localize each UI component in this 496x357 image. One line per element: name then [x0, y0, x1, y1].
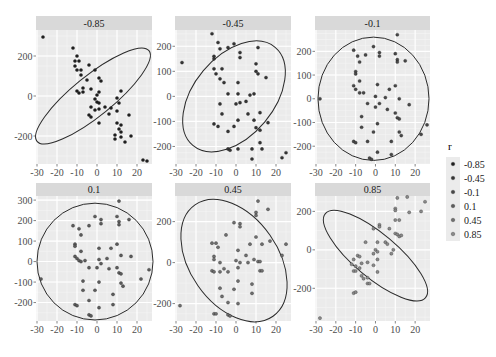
facet-strip-label: -0.1	[365, 18, 381, 29]
data-point	[115, 266, 118, 269]
data-point	[260, 269, 263, 272]
data-point	[77, 91, 80, 94]
data-point	[77, 59, 80, 62]
legend-entry-label: 0.1	[464, 201, 477, 212]
data-point	[372, 45, 375, 48]
data-point	[79, 260, 82, 263]
x-tick-label: -10	[349, 324, 362, 335]
panel-background	[175, 196, 291, 321]
data-point	[258, 111, 261, 114]
x-tick-label: -20	[329, 167, 342, 178]
data-point	[119, 89, 122, 92]
data-point	[396, 196, 399, 199]
facet-panel--0.1: -0.1-30-20-10010202001000-100-200	[293, 16, 435, 178]
data-point	[87, 224, 90, 227]
data-point	[400, 234, 403, 237]
data-point	[234, 102, 237, 105]
data-point	[354, 291, 357, 294]
data-point	[105, 257, 108, 260]
data-point	[73, 59, 76, 62]
data-point	[178, 304, 181, 307]
data-point	[238, 51, 241, 54]
data-point	[370, 158, 373, 161]
data-point	[147, 268, 150, 271]
x-tick-label: -20	[189, 167, 202, 178]
data-point	[115, 243, 118, 246]
y-tick-label: 100	[18, 236, 33, 247]
data-point	[372, 264, 375, 267]
data-point	[107, 267, 110, 270]
y-tick-label: 0	[167, 257, 172, 268]
data-point	[358, 267, 361, 270]
data-point	[376, 151, 379, 154]
data-point	[280, 156, 283, 159]
data-point	[236, 81, 239, 84]
data-point	[394, 218, 397, 221]
data-point	[396, 60, 399, 63]
data-point	[352, 49, 355, 52]
data-point	[390, 153, 393, 156]
facet-strip-label: -0.45	[223, 18, 244, 29]
data-point	[218, 261, 221, 264]
data-point	[360, 126, 363, 129]
data-point	[234, 259, 237, 262]
x-tick-label: -30	[309, 324, 322, 335]
data-point	[103, 105, 106, 108]
data-point	[97, 90, 100, 93]
legend-key-point	[451, 218, 455, 222]
data-point	[388, 88, 391, 91]
data-point	[232, 221, 235, 224]
data-point	[376, 241, 379, 244]
x-tick-label: -10	[349, 167, 362, 178]
data-point	[180, 61, 183, 64]
data-point	[260, 243, 263, 246]
facet-strip-label: -0.85	[84, 18, 105, 29]
data-point	[141, 158, 144, 161]
data-point	[376, 122, 379, 125]
panel-background	[315, 196, 430, 321]
facet-strip-label: 0.45	[224, 184, 242, 195]
data-point	[87, 63, 90, 66]
x-tick-label: -30	[30, 324, 43, 335]
data-point	[318, 317, 321, 320]
data-point	[258, 129, 261, 132]
data-point	[210, 32, 213, 35]
data-point	[97, 121, 100, 124]
data-point	[79, 68, 82, 71]
data-point	[254, 235, 257, 238]
data-point	[89, 314, 92, 317]
data-point	[97, 101, 100, 104]
data-point	[222, 267, 225, 270]
data-point	[364, 53, 367, 56]
x-tick-label: -20	[329, 324, 342, 335]
data-point	[392, 248, 395, 251]
data-point	[404, 59, 407, 62]
data-point	[212, 57, 215, 60]
data-point	[378, 102, 381, 105]
data-point	[218, 47, 221, 50]
data-point	[354, 269, 357, 272]
data-point	[250, 283, 253, 286]
data-point	[378, 54, 381, 57]
data-point	[366, 261, 369, 264]
data-point	[360, 274, 363, 277]
data-point	[248, 243, 251, 246]
data-point	[99, 262, 102, 265]
legend-entry-label: -0.1	[464, 187, 480, 198]
data-point	[129, 134, 132, 137]
data-point	[244, 254, 247, 257]
panel-background	[36, 30, 152, 164]
data-point	[117, 127, 120, 130]
data-point	[264, 76, 267, 79]
facet-panel-0.85: 0.85-30-20-10010202000-200	[293, 183, 439, 335]
data-point	[378, 225, 381, 228]
panel-background	[175, 30, 291, 164]
data-point	[109, 106, 112, 109]
data-point	[214, 72, 217, 75]
data-point	[117, 101, 120, 104]
data-point	[398, 130, 401, 133]
data-point	[394, 111, 397, 114]
data-point	[358, 255, 361, 258]
data-point	[228, 149, 231, 152]
data-point	[236, 147, 239, 150]
